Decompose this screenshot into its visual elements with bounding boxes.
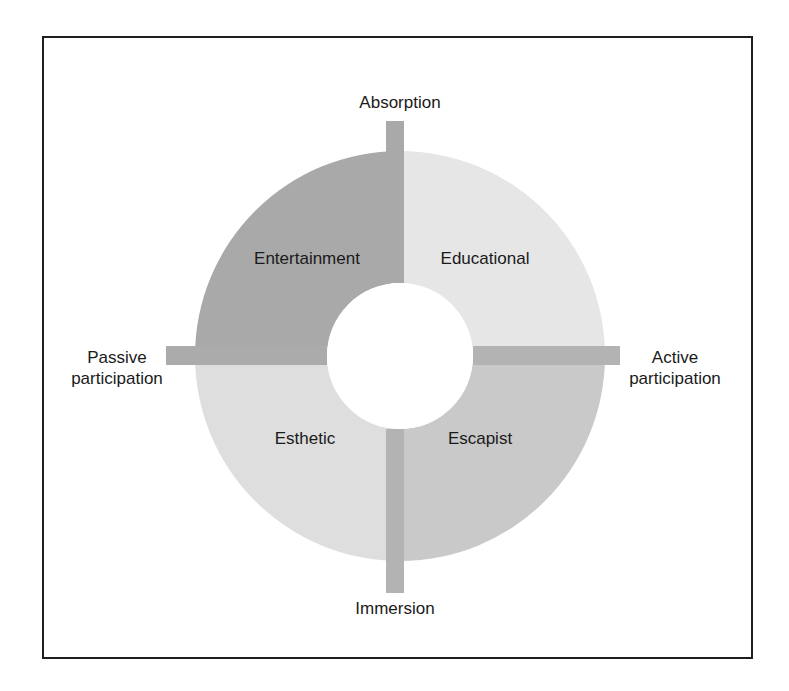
- quadrant-label-entertainment: Entertainment: [232, 248, 382, 269]
- axis-label-absorption: Absorption: [340, 92, 460, 113]
- axis-bar-active: [473, 346, 620, 365]
- axis-label-passive-line1: Passive: [52, 347, 182, 368]
- axis-label-active-participation: Active participation: [610, 347, 740, 389]
- quadrant-label-esthetic: Esthetic: [250, 428, 360, 449]
- axis-label-immersion: Immersion: [335, 598, 455, 619]
- axis-label-active-line2: participation: [610, 368, 740, 389]
- center-hole: [327, 283, 473, 429]
- axis-label-passive-line2: participation: [52, 368, 182, 389]
- quadrant-label-escapist: Escapist: [425, 428, 535, 449]
- axis-bar-immersion: [386, 429, 404, 593]
- axis-bar-absorption: [386, 121, 404, 283]
- axis-label-active-line1: Active: [610, 347, 740, 368]
- axis-bar-passive: [166, 346, 327, 365]
- quadrant-label-educational: Educational: [415, 248, 555, 269]
- axis-label-passive-participation: Passive participation: [52, 347, 182, 389]
